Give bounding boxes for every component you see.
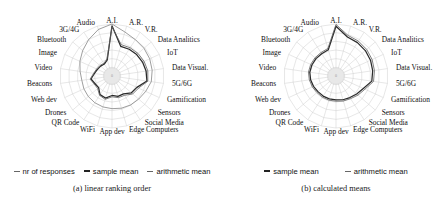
radar-axis-label: Web dev xyxy=(255,95,281,104)
legend-swatch-line-icon xyxy=(84,170,90,172)
radar-axis-label: Edge Computers xyxy=(129,125,179,134)
legend-swatch-line-icon xyxy=(147,171,153,172)
radar-axis-label: Drones xyxy=(45,108,66,117)
legend-swatch-line-icon xyxy=(264,170,270,172)
radar-axis-label: Data Visual. xyxy=(172,63,209,72)
radar-axis-label: Beacons xyxy=(251,79,276,88)
legend-row: nr of responsessample meanarithmetic mea… xyxy=(0,162,448,182)
radar-axis-label: Image xyxy=(263,48,282,57)
legend-label: sample mean xyxy=(93,167,139,176)
radar-axis-label: Video xyxy=(258,63,276,72)
radar-panel-a: 0A.I.A.R.V.R.Data AnaliticsIoTData Visua… xyxy=(0,0,224,164)
legend-label: arithmetic mean xyxy=(354,167,408,176)
radar-axis-label: 5G/6G xyxy=(396,79,417,88)
radar-axis-label: QR Code xyxy=(276,118,304,127)
caption-panel-a: (a) linear ranking order xyxy=(0,184,224,206)
radar-axis-label: A.R. xyxy=(353,18,367,27)
radar-axis-label: Data Visual. xyxy=(396,63,433,72)
radar-axis-label: Sensors xyxy=(382,108,405,117)
radar-axis-label: WiFi xyxy=(80,125,95,134)
legend-item: nr of responses xyxy=(14,167,75,176)
radar-axis-label: Bluetooth xyxy=(261,35,290,44)
radar-axis-label: Data Analitics xyxy=(158,35,200,44)
radar-center-tick-label: 0 xyxy=(335,73,337,78)
caption-panel-b: (b) calculated means xyxy=(224,184,448,206)
radar-series-sample-mean xyxy=(310,26,373,100)
legend-label: sample mean xyxy=(273,167,319,176)
radar-axis-label: A.I. xyxy=(106,16,118,25)
radar-axis-label: 5G/6G xyxy=(172,79,193,88)
legend-label: arithmetic mean xyxy=(156,167,210,176)
legend-item: sample mean xyxy=(84,167,139,176)
radar-axis-label: V.R. xyxy=(369,25,382,34)
radar-axis-label: Gamification xyxy=(167,95,206,104)
radar-axis-label: Drones xyxy=(269,108,290,117)
legend-item: arithmetic mean xyxy=(345,167,408,176)
radar-axis-label: A.I. xyxy=(330,16,342,25)
radar-chart-a: 0A.I.A.R.V.R.Data AnaliticsIoTData Visua… xyxy=(0,0,224,164)
legend-swatch-line-icon xyxy=(345,171,351,172)
radar-panels: 0A.I.A.R.V.R.Data AnaliticsIoTData Visua… xyxy=(0,0,448,164)
radar-axis-label: Image xyxy=(39,48,58,57)
figure-container: 0A.I.A.R.V.R.Data AnaliticsIoTData Visua… xyxy=(0,0,448,210)
radar-axis-label: Web dev xyxy=(31,95,57,104)
radar-axis-label: IoT xyxy=(167,48,178,57)
radar-axis-label: Bluetooth xyxy=(37,35,66,44)
legend-item: sample mean xyxy=(264,167,319,176)
legend-item: arithmetic mean xyxy=(147,167,210,176)
legend-swatch-line-icon xyxy=(14,171,20,172)
radar-center-tick-label: 0 xyxy=(111,73,113,78)
radar-axis-label: Gamification xyxy=(391,95,430,104)
radar-axis-label: Sensors xyxy=(158,108,181,117)
radar-axis-label: WiFi xyxy=(304,125,319,134)
radar-axis-label: App dev xyxy=(323,127,349,136)
radar-axis-label: QR Code xyxy=(52,118,80,127)
radar-panel-b: 0A.I.A.R.V.R.Data AnaliticsIoTData Visua… xyxy=(224,0,448,164)
legend-panel-a: nr of responsessample meanarithmetic mea… xyxy=(0,162,224,180)
radar-axis-label: Audio xyxy=(76,18,95,27)
radar-axis-label: V.R. xyxy=(145,25,158,34)
legend-panel-b: sample meanarithmetic mean xyxy=(224,162,448,180)
radar-axis-label: Audio xyxy=(300,18,319,27)
radar-axis-label: Edge Computers xyxy=(353,125,403,134)
radar-axis-label: Data Analitics xyxy=(382,35,424,44)
caption-row: (a) linear ranking order (b) calculated … xyxy=(0,184,448,206)
radar-axis-label: Video xyxy=(34,63,52,72)
radar-axis-label: IoT xyxy=(391,48,402,57)
radar-chart-b: 0A.I.A.R.V.R.Data AnaliticsIoTData Visua… xyxy=(224,0,448,164)
legend-label: nr of responses xyxy=(23,167,75,176)
radar-axis-label: App dev xyxy=(99,127,125,136)
radar-axis-label: A.R. xyxy=(129,18,143,27)
radar-axis-label: Beacons xyxy=(27,79,52,88)
